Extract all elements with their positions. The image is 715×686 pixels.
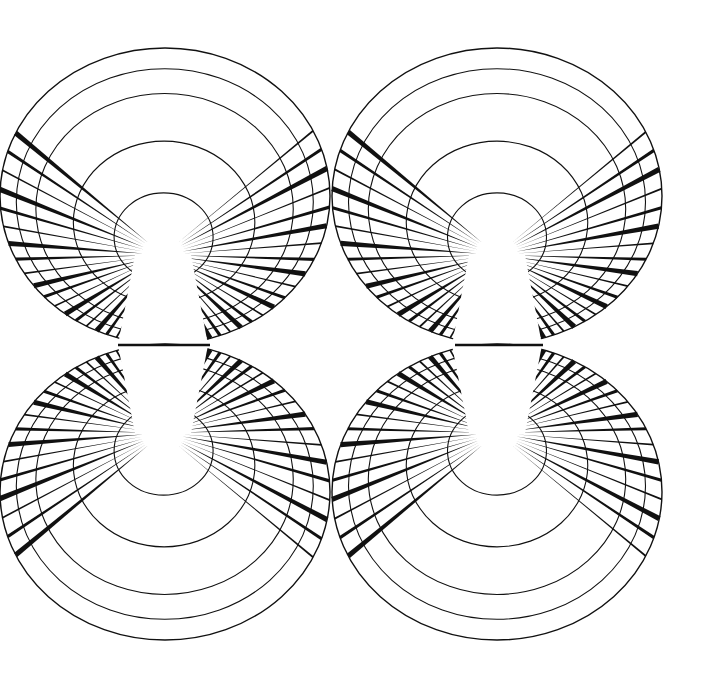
fan-spoke — [33, 260, 143, 289]
opening-mask — [118, 255, 208, 345]
radial-fan-pattern — [0, 0, 715, 686]
fan-spoke — [33, 400, 143, 429]
fan-spoke — [515, 167, 661, 246]
opening-mask — [452, 345, 542, 433]
fan-spoke — [182, 260, 295, 288]
fan-spoke — [366, 399, 478, 428]
fan-spoke — [182, 401, 295, 429]
fan-spoke — [366, 260, 478, 289]
fan-spoke — [515, 442, 661, 521]
opening-mask — [452, 255, 542, 345]
opening-mask — [118, 345, 208, 433]
